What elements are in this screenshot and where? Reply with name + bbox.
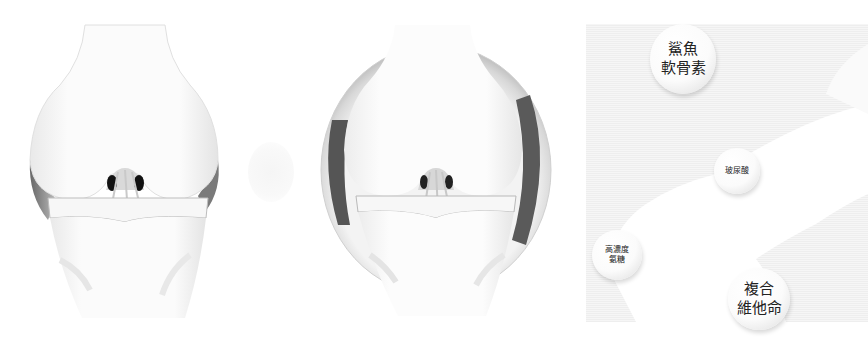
- ingredient-bubble-shark-chondroitin: 鯊魚 軟骨素: [650, 24, 716, 94]
- knee-illustration-protected: [290, 0, 580, 346]
- ingredient-label: 複合 維他命: [737, 280, 782, 318]
- faint-bubble-decoration: [248, 142, 294, 202]
- ingredients-panel: 鯊魚 軟骨素 玻尿酸 高濃度 氨糖 複合 維他命: [586, 24, 868, 322]
- knee-joint-capsule-graphic: [290, 0, 580, 346]
- knee-illustration-normal: [0, 0, 290, 346]
- ingredient-bubble-hyaluronic-acid: 玻尿酸: [714, 148, 760, 194]
- ingredient-bubble-glucosamine: 高濃度 氨糖: [592, 230, 642, 280]
- knee-joint-graphic: [0, 0, 290, 346]
- ingredient-label: 玻尿酸: [725, 166, 749, 176]
- ingredient-label: 鯊魚 軟骨素: [661, 40, 706, 78]
- ingredient-label: 高濃度 氨糖: [605, 245, 629, 265]
- ingredient-bubble-multivitamin: 複合 維他命: [728, 268, 790, 330]
